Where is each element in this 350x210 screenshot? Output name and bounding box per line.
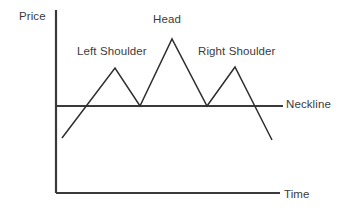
neckline-label: Neckline <box>286 98 331 111</box>
y-axis-label: Price <box>19 10 46 23</box>
head-label: Head <box>153 13 181 26</box>
head-and-shoulders-chart: Price Time Neckline Left Shoulder Head R… <box>0 0 350 210</box>
right-shoulder-label: Right Shoulder <box>198 45 275 58</box>
x-axis-label: Time <box>284 188 310 201</box>
left-shoulder-label: Left Shoulder <box>77 45 147 58</box>
